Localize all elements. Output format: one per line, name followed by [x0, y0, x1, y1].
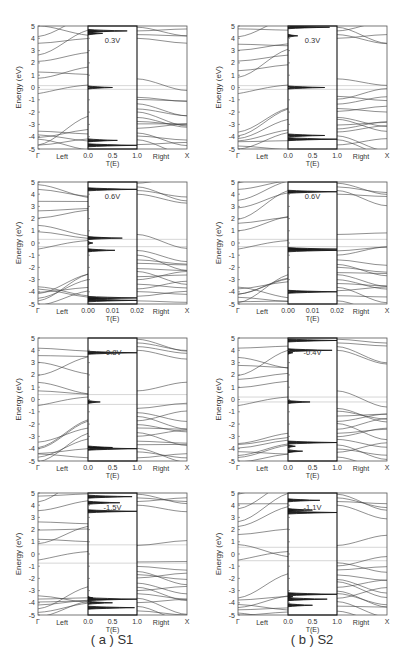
band-line-left [238, 529, 288, 535]
y-tick-label: 0 [231, 84, 235, 91]
band-line-left [238, 193, 288, 208]
y-tick-label: 0 [231, 240, 235, 247]
band-line-left [38, 356, 88, 357]
y-tick-label: 3 [231, 47, 235, 54]
transmission-peak [288, 339, 337, 342]
band-line-right [137, 599, 187, 602]
band-line-right [137, 494, 187, 503]
transmission-peak [288, 441, 337, 444]
band-line-right [137, 100, 187, 101]
y-tick-label: -3 [229, 433, 235, 440]
y-tick-label: -2 [29, 109, 35, 116]
y-tick-label: -1 [229, 96, 235, 103]
y-axis-label: Energy (eV) [14, 221, 23, 264]
transmission-peak [88, 606, 135, 609]
band-line-right [337, 579, 387, 593]
x-tick-label: 1.0 [132, 152, 142, 159]
y-tick-label: -1 [29, 563, 35, 570]
right-lead-label: Right [153, 153, 169, 161]
band-line-right [337, 505, 387, 519]
band-line-left [38, 39, 88, 44]
x-tick-label: 0.0 [83, 464, 93, 471]
y-tick-label: -1 [29, 252, 35, 259]
y-tick-label: 1 [231, 72, 235, 79]
band-line-left [38, 291, 88, 305]
x-tick-label: 0.0 [83, 618, 93, 625]
bias-label: -0.4V [304, 348, 322, 357]
plot-S2--0.4V [238, 314, 387, 470]
transmission-peak [288, 290, 337, 293]
x-tick-label: 0.02 [130, 307, 144, 314]
y-tick-label: -5 [29, 146, 35, 153]
caption-s2: ( b ) S2 [237, 632, 387, 647]
x-axis-label: T(E) [306, 315, 320, 323]
band-line-left [238, 108, 288, 132]
y-tick-label: 2 [231, 371, 235, 378]
y-tick-label: -5 [29, 458, 35, 465]
y-tick-label: -5 [29, 301, 35, 308]
y-axis-label: Energy (eV) [214, 221, 223, 264]
y-tick-label: -3 [29, 276, 35, 283]
y-tick-label: 0 [31, 396, 35, 403]
left-lead-label: Left [256, 619, 268, 626]
x-tick-label: 0.01 [306, 307, 320, 314]
y-tick-label: -5 [29, 612, 35, 619]
y-tick-label: 0 [31, 84, 35, 91]
y-tick-label: -3 [229, 587, 235, 594]
x-tick-label: 0.5 [108, 152, 118, 159]
transmission-peak [88, 249, 115, 252]
band-line-left [38, 72, 88, 74]
band-line-right [137, 194, 187, 203]
gamma-label: Γ [236, 307, 240, 314]
band-line-right [137, 38, 187, 43]
band-line-left [238, 49, 288, 77]
transmission-peak [88, 188, 137, 191]
y-axis-label: Energy (eV) [14, 532, 23, 575]
x-tick-label: 0.01 [106, 307, 120, 314]
transmission-peak [88, 299, 137, 302]
band-line-right [137, 284, 187, 288]
y-tick-label: 1 [31, 227, 35, 234]
band-line-right [337, 284, 387, 286]
band-line-right [337, 280, 387, 289]
band-line-right [137, 452, 187, 458]
band-line-right [337, 296, 387, 297]
y-tick-label: 2 [31, 215, 35, 222]
left-lead-label: Left [256, 308, 268, 315]
y-tick-label: 5 [231, 335, 235, 342]
x-tick-label: 1.0 [132, 618, 142, 625]
transmission-peak [88, 86, 113, 89]
y-tick-label: -4 [29, 445, 35, 452]
plot-S2--1.1V [238, 468, 387, 624]
y-tick-label: -2 [29, 421, 35, 428]
band-line-left [238, 65, 288, 71]
band-line-right [337, 443, 387, 452]
y-tick-label: 4 [31, 35, 35, 42]
band-line-left [238, 381, 288, 387]
y-tick-label: -4 [229, 445, 235, 452]
band-line-right [337, 449, 387, 455]
band-line-right [137, 448, 187, 462]
band-line-left [238, 301, 288, 302]
y-tick-label: -3 [229, 276, 235, 283]
band-line-left [38, 225, 88, 236]
right-lead-label: Right [153, 619, 169, 627]
y-tick-label: 2 [31, 59, 35, 66]
band-line-right [337, 343, 387, 346]
band-line-left [238, 241, 288, 250]
band-line-right [337, 606, 387, 607]
band-line-left [238, 18, 288, 37]
left-lead-label: Left [56, 619, 68, 626]
y-tick-label: -2 [229, 109, 235, 116]
y-axis-label: Energy (eV) [14, 66, 23, 109]
band-line-right [137, 142, 187, 144]
band-line-right [337, 419, 387, 430]
y-tick-label: -2 [29, 264, 35, 271]
y-tick-label: -2 [29, 575, 35, 582]
transmission-peak [88, 144, 137, 147]
y-tick-label: 4 [231, 502, 235, 509]
band-line-right [337, 183, 387, 194]
x-tick-label: 0.00 [281, 307, 295, 314]
y-axis-label: Energy (eV) [214, 66, 223, 109]
y-tick-label: 1 [31, 538, 35, 545]
